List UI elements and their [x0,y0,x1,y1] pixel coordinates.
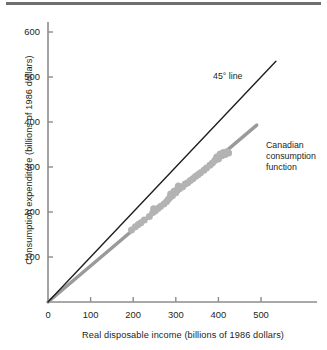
data-point [225,150,232,157]
x-tick-label: 100 [74,309,108,320]
x-tick-label: 200 [116,309,150,320]
forty-five-degree-line-label: 45° line [213,71,242,82]
series-observation-points [128,148,232,233]
y-tick-label: 300 [6,161,40,172]
x-tick-label: 300 [159,309,193,320]
series-45-degree-line [48,61,276,302]
x-tick-label: 500 [244,309,278,320]
x-tick-label: 0 [31,309,65,320]
plot-canvas [0,0,327,350]
x-tick-label: 400 [201,309,235,320]
y-tick-label: 200 [6,206,40,217]
y-tick-label: 100 [6,251,40,262]
y-tick-label: 500 [6,71,40,82]
x-axis-label: Real disposable income (billions of 1986… [48,330,318,340]
consumption-function-label: Canadian consumption function [266,140,316,173]
y-tick-label: 400 [6,116,40,127]
y-tick-label: 600 [6,26,40,37]
chart-figure: Consumption expenditure (billions of 198… [0,0,327,350]
